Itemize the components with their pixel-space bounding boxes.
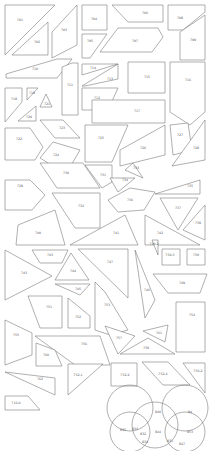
piece-outline bbox=[5, 180, 45, 210]
piece-label: 717 bbox=[134, 109, 140, 113]
piece-label: 706 bbox=[142, 11, 148, 15]
piece-label: 752-4 bbox=[158, 372, 167, 376]
pattern-piece: 729 bbox=[5, 180, 45, 210]
piece-outline bbox=[155, 180, 200, 194]
pattern-piece: 720 bbox=[18, 106, 36, 121]
piece-label: 720 bbox=[26, 115, 32, 119]
pattern-piece: 745 bbox=[55, 284, 90, 295]
piece-label: 701 bbox=[17, 18, 23, 22]
piece-label: 707 bbox=[132, 39, 138, 43]
pattern-layout-canvas: 7017027037047057067077087097107117127137… bbox=[0, 0, 210, 451]
circle-segment-label: 840 bbox=[155, 410, 161, 414]
pattern-piece: 750 bbox=[187, 249, 205, 265]
piece-label: 735 bbox=[187, 184, 193, 188]
circle-segment-label: 835 bbox=[120, 428, 126, 432]
piece-outline bbox=[112, 5, 163, 22]
piece-label: 756 bbox=[81, 342, 87, 346]
piece-label: 726 bbox=[140, 146, 146, 150]
piece-label: 716 bbox=[185, 78, 191, 82]
piece-label: 758 bbox=[143, 346, 149, 350]
pattern-piece: 740 bbox=[16, 210, 65, 245]
pattern-piece: 746 bbox=[135, 250, 155, 318]
piece-label: 718 bbox=[11, 97, 17, 101]
circle-segment-label: 853 bbox=[187, 430, 193, 434]
piece-outline bbox=[62, 63, 78, 115]
piece-label: 728 bbox=[193, 146, 199, 150]
pattern-piece: 752-1 bbox=[68, 364, 103, 395]
pattern-piece: 722 bbox=[5, 128, 43, 160]
pattern-piece: 749 bbox=[153, 274, 207, 293]
piece-label: 743 bbox=[47, 253, 53, 257]
pattern-piece: 723 bbox=[40, 120, 80, 138]
pattern-piece: 752 bbox=[68, 298, 90, 328]
piece-label: 722 bbox=[16, 137, 22, 141]
piece-label: 743 bbox=[21, 271, 27, 275]
piece-label: 752 bbox=[75, 315, 81, 319]
piece-outline bbox=[55, 284, 90, 295]
piece-label: 716-0 bbox=[11, 401, 20, 405]
piece-outline bbox=[183, 363, 205, 393]
pattern-piece: 733 bbox=[125, 163, 143, 178]
piece-label: 725 bbox=[98, 136, 104, 140]
piece-label: 756-2 bbox=[193, 369, 202, 373]
piece-label: 727 bbox=[177, 133, 183, 137]
piece-outline bbox=[82, 34, 107, 58]
piece-label: 747 bbox=[107, 260, 113, 264]
pattern-piece: 754 bbox=[176, 302, 205, 352]
piece-outline bbox=[52, 193, 100, 228]
pattern-piece: 736 bbox=[108, 188, 155, 212]
piece-label: 760 bbox=[43, 353, 49, 357]
piece-label: 733 bbox=[133, 166, 139, 170]
piece-label: 752-2 bbox=[120, 373, 129, 377]
circle-segment-label: 847 bbox=[179, 442, 185, 446]
piece-outline bbox=[135, 250, 155, 318]
piece-outline bbox=[92, 100, 165, 123]
piece-outline bbox=[5, 88, 22, 122]
piece-label: 753 bbox=[104, 303, 110, 307]
piece-label: 713 bbox=[107, 77, 113, 81]
piece-outline bbox=[68, 364, 103, 395]
piece-outline bbox=[5, 396, 40, 410]
piece-label: 734 bbox=[122, 178, 128, 182]
piece-label: 738 bbox=[195, 221, 201, 225]
pattern-piece: 718 bbox=[5, 88, 22, 122]
piece-label: 704 bbox=[91, 17, 97, 21]
piece-label: 742 bbox=[157, 231, 163, 235]
pattern-piece: 716-0 bbox=[5, 396, 40, 410]
piece-outline bbox=[187, 249, 205, 265]
pattern-piece: 717 bbox=[92, 100, 165, 123]
piece-label: 761 bbox=[156, 331, 162, 335]
piece-label: 736 bbox=[127, 198, 133, 202]
piece-label: 711 bbox=[67, 83, 73, 87]
pattern-piece: 755 bbox=[5, 320, 32, 365]
piece-label: 737 bbox=[175, 206, 181, 210]
piece-label: 715 bbox=[144, 75, 150, 79]
pattern-piece: 743 bbox=[32, 250, 68, 263]
circle-segment-label: 832 bbox=[140, 432, 146, 436]
pattern-piece: 711 bbox=[62, 63, 78, 115]
piece-label: 719 bbox=[29, 91, 35, 95]
piece-label: 741 bbox=[113, 231, 119, 235]
pattern-piece: 715 bbox=[128, 62, 165, 93]
pattern-piece: 756-2 bbox=[183, 363, 205, 393]
piece-label: 702 bbox=[34, 40, 40, 44]
piece-label: 750-2 bbox=[149, 242, 158, 246]
pattern-piece: 707 bbox=[100, 28, 163, 52]
piece-label: 750-3 bbox=[165, 253, 174, 257]
circle-segment-label: 844 bbox=[155, 430, 161, 434]
piece-label: 724 bbox=[53, 153, 59, 157]
piece-label: 750 bbox=[193, 253, 199, 257]
piece-outline bbox=[170, 62, 205, 125]
circle-segment-label: 833 bbox=[132, 427, 138, 431]
piece-label: 714 bbox=[90, 66, 96, 70]
circle-segment-label: 84 bbox=[188, 410, 192, 414]
piece-outline bbox=[28, 296, 62, 328]
piece-label: 752-1 bbox=[73, 373, 82, 377]
piece-outline bbox=[5, 372, 55, 395]
piece-label: 740 bbox=[35, 231, 41, 235]
circle-segment-label: 834 bbox=[142, 440, 148, 444]
pattern-piece: 726 bbox=[120, 125, 165, 166]
piece-outline bbox=[176, 302, 205, 352]
pattern-piece: 716 bbox=[170, 62, 205, 125]
piece-label: 755 bbox=[13, 333, 19, 337]
